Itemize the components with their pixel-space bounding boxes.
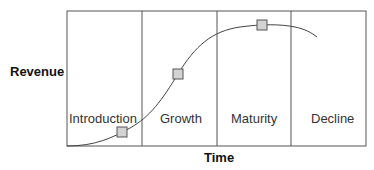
marker-growth: [173, 69, 183, 79]
revenue-curve: [67, 25, 317, 146]
stage-label-maturity: Maturity: [231, 111, 277, 126]
life-cycle-diagram: [0, 0, 374, 170]
stage-label-growth: Growth: [160, 111, 202, 126]
y-axis-label: Revenue: [10, 64, 64, 79]
x-axis-label: Time: [204, 150, 234, 165]
stage-label-introduction: Introduction: [69, 111, 137, 126]
marker-maturity: [257, 20, 267, 30]
marker-introduction: [117, 127, 127, 137]
stage-label-decline: Decline: [311, 111, 354, 126]
